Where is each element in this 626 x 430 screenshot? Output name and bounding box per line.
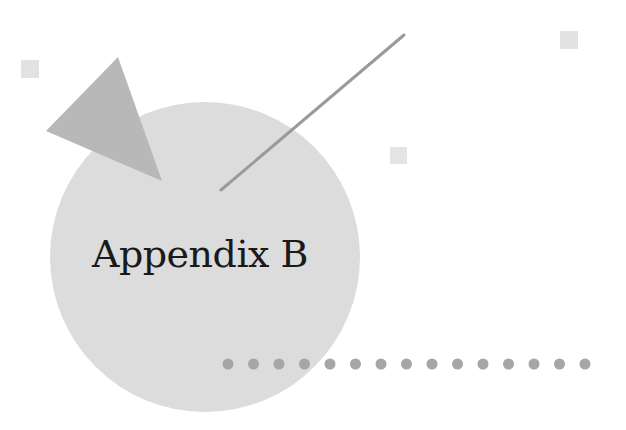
page-title: Appendix B bbox=[92, 232, 308, 276]
small-square-left bbox=[21, 60, 39, 78]
dotted-line bbox=[223, 359, 591, 370]
decorative-graphics bbox=[0, 0, 626, 430]
small-square-top-right bbox=[560, 31, 578, 49]
small-square-middle bbox=[390, 147, 407, 164]
